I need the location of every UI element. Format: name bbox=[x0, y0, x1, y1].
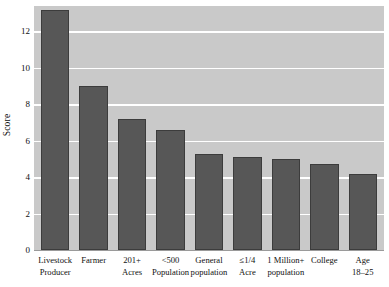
x-axis-tick-labels: Livestock ProducerFarmer201+ Acres<500 P… bbox=[34, 253, 384, 287]
bar-slot bbox=[151, 6, 189, 250]
bar-slot bbox=[305, 6, 343, 250]
bar-slot bbox=[228, 6, 266, 250]
x-axis-tick-label: Livestock Producer bbox=[36, 253, 74, 287]
bar[interactable] bbox=[195, 154, 223, 251]
bar-slot bbox=[344, 6, 382, 250]
bar-slot bbox=[267, 6, 305, 250]
bar[interactable] bbox=[118, 119, 146, 250]
y-axis-tick-label: 12 bbox=[21, 27, 30, 36]
y-axis-tick-label: 0 bbox=[26, 246, 31, 255]
y-axis-tick-label: 6 bbox=[26, 136, 31, 145]
x-axis-tick-label: Farmer bbox=[74, 253, 112, 287]
y-axis-tick-label: 10 bbox=[21, 63, 30, 72]
bar[interactable] bbox=[156, 130, 184, 250]
x-axis-tick-label: Age 18–25 bbox=[344, 253, 382, 287]
x-axis-tick-label: <500 Population bbox=[151, 253, 189, 287]
bar-slot bbox=[74, 6, 112, 250]
bar-chart: Score 024681012 Livestock ProducerFarmer… bbox=[0, 0, 389, 287]
bar[interactable] bbox=[310, 164, 338, 250]
bar-slot bbox=[36, 6, 74, 250]
x-axis-tick-label: College bbox=[305, 253, 343, 287]
x-axis-tick-label: ≤1/4 Acre bbox=[228, 253, 266, 287]
bar-slot bbox=[190, 6, 228, 250]
bar[interactable] bbox=[233, 157, 261, 250]
bar[interactable] bbox=[349, 174, 377, 250]
x-axis-tick-label: 1 Million+ population bbox=[267, 253, 305, 287]
bar[interactable] bbox=[272, 159, 300, 250]
plot-area bbox=[34, 6, 384, 250]
bar[interactable] bbox=[79, 86, 107, 250]
y-axis-tick-label: 2 bbox=[26, 209, 31, 218]
x-axis-line bbox=[34, 250, 384, 251]
y-axis-tick-label: 8 bbox=[26, 100, 31, 109]
bar-slot bbox=[113, 6, 151, 250]
x-axis-tick-label: 201+ Acres bbox=[113, 253, 151, 287]
x-axis-tick-label: General population bbox=[190, 253, 228, 287]
bar[interactable] bbox=[41, 10, 69, 250]
bar-series bbox=[34, 6, 384, 250]
y-axis-tick-label: 4 bbox=[26, 173, 31, 182]
y-axis-tick-labels: 024681012 bbox=[14, 0, 30, 287]
